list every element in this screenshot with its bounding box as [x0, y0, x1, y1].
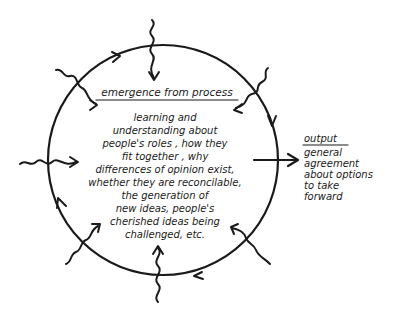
- output-line: to take: [304, 180, 339, 191]
- wavy-input-bottom-left: [66, 226, 98, 264]
- output-line: agreement: [304, 158, 360, 169]
- center-line: cherished ideas being: [110, 216, 220, 227]
- center-line: people's roles , how they: [101, 138, 228, 149]
- output-line: forward: [304, 191, 343, 202]
- arrowhead-top-right-input-icon: [234, 104, 242, 113]
- center-line: fit together , why: [122, 151, 210, 162]
- output-line: general: [304, 147, 342, 158]
- center-line: new ideas, people's: [116, 203, 215, 214]
- center-line: challenged, etc.: [125, 229, 205, 240]
- center-line: differences of opinion exist,: [95, 164, 234, 175]
- output-heading: output: [304, 133, 338, 144]
- center-line: understanding about: [113, 125, 219, 136]
- wavy-input-top-left: [56, 70, 96, 104]
- output-text: output general agreement about options t…: [304, 133, 373, 202]
- circle-heading: emergence from process: [101, 86, 233, 98]
- center-text: learning and understanding about people'…: [88, 112, 241, 240]
- center-line: whether they are reconcilable,: [88, 177, 241, 188]
- arrowhead-top-left-input-icon: [90, 100, 97, 110]
- process-diagram: emergence from process learning and unde…: [0, 0, 397, 317]
- wavy-input-top: [150, 20, 154, 78]
- arrowhead-bottom-input-icon: [153, 246, 163, 254]
- arrowhead-bottom-right-icon: [194, 272, 203, 279]
- output-line: about options: [304, 169, 373, 180]
- output-arrow: [254, 154, 298, 166]
- center-line: the generation of: [122, 190, 210, 201]
- arrowhead-top-icon: [149, 72, 159, 80]
- center-line: learning and: [134, 112, 198, 123]
